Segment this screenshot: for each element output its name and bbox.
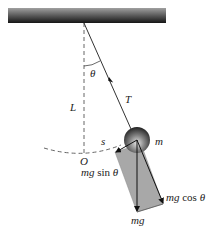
swing-arc <box>44 145 121 153</box>
pendulum-diagram: θ L T s m O mg sin θ mg cos θ mg <box>0 0 209 238</box>
gravity-label: mg <box>131 214 145 226</box>
theta-label: θ <box>90 67 96 79</box>
force-parallelogram <box>115 144 163 212</box>
mass-label: m <box>155 135 163 147</box>
tension-arrow-icon <box>108 77 113 83</box>
tangential-force-label: mg sin θ <box>81 166 119 178</box>
radial-force-label: mg cos θ <box>166 191 206 203</box>
tension-label: T <box>125 93 132 105</box>
ceiling-support <box>8 8 166 23</box>
length-label: L <box>69 101 76 113</box>
arc-length-label: s <box>101 135 105 147</box>
theta-angle-arc <box>84 61 100 66</box>
